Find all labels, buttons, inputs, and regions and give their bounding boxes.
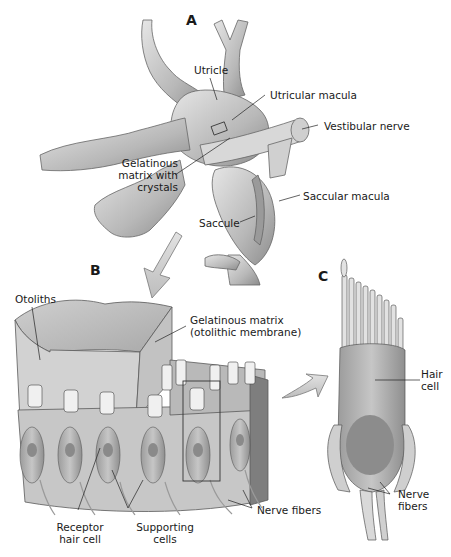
stereocilia: [341, 259, 403, 351]
label-otoliths: Otoliths: [15, 293, 56, 305]
label-gelatinous-matrix-crystals: Gelatinous matrix with crystals: [110, 157, 178, 193]
label-line: matrix with: [110, 169, 178, 181]
label-line: Gelatinous: [110, 157, 178, 169]
label-line: (otolithic membrane): [190, 326, 301, 338]
label-utricle: Utricle: [194, 64, 228, 76]
label-line: crystals: [110, 181, 178, 193]
label-line: fibers: [398, 500, 429, 512]
panel-label-c: C: [318, 268, 328, 284]
label-line: Nerve: [398, 488, 429, 500]
panel-label-a: A: [186, 12, 197, 28]
label-nerve-fibers-c: Nerve fibers: [398, 488, 429, 512]
label-line: cell: [421, 380, 443, 392]
illustration: [0, 0, 451, 557]
label-supporting-cells: Supporting cells: [132, 521, 198, 545]
label-vestibular-nerve: Vestibular nerve: [324, 120, 410, 132]
arrow-a-to-b: [144, 232, 182, 298]
label-line: hair cell: [50, 533, 110, 545]
label-line: Hair: [421, 368, 443, 380]
panel-label-b: B: [90, 262, 101, 278]
label-receptor-hair-cell: Receptor hair cell: [50, 521, 110, 545]
label-utricular-macula: Utricular macula: [270, 89, 357, 101]
label-saccule: Saccule: [199, 217, 240, 229]
label-line: cells: [132, 533, 198, 545]
label-line: Receptor: [50, 521, 110, 533]
label-saccular-macula: Saccular macula: [303, 190, 390, 202]
vestibular-maculae-figure: A B C Utricle Utricular macula Vestibula…: [0, 0, 451, 557]
arrow-b-to-c: [282, 374, 328, 398]
label-hair-cell: Hair cell: [421, 368, 443, 392]
label-nerve-fibers-b: Nerve fibers: [257, 504, 321, 516]
label-line: Gelatinous matrix: [190, 314, 301, 326]
label-line: Supporting: [132, 521, 198, 533]
label-gelatinous-matrix-otolithic: Gelatinous matrix (otolithic membrane): [190, 314, 301, 338]
